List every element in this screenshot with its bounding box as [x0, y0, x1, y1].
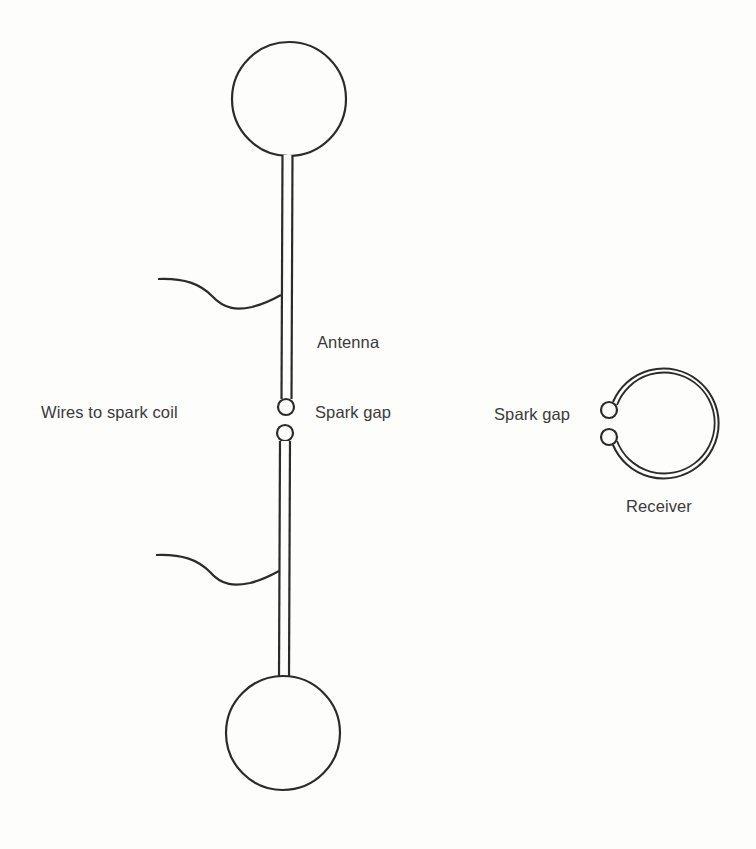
transmitter-gap-ball-lower: [277, 425, 293, 441]
wires-to-spark-coil-label: Wires to spark coil: [41, 404, 178, 421]
transmitter-gap-ball-upper: [278, 399, 294, 415]
lower-coil-wire: [156, 555, 279, 585]
diagram-page: Antenna Wires to spark coil Spark gap Sp…: [0, 0, 756, 849]
receiver-gap-ball-lower: [601, 429, 617, 445]
upper-coil-wire: [158, 279, 281, 309]
spark-gap-apparatus-diagram: [0, 0, 756, 849]
top-sphere: [232, 42, 346, 156]
upper-antenna-rod: [282, 155, 293, 399]
lower-antenna-rod: [279, 441, 290, 678]
bottom-sphere: [226, 676, 340, 790]
receiver-label: Receiver: [626, 498, 692, 515]
receiver-spark-gap-label: Spark gap: [494, 406, 570, 423]
transmitter-spark-gap-label: Spark gap: [315, 404, 391, 421]
antenna-label: Antenna: [317, 334, 379, 351]
receiver-gap-ball-upper: [601, 402, 617, 418]
receiver-loop: [613, 368, 719, 478]
